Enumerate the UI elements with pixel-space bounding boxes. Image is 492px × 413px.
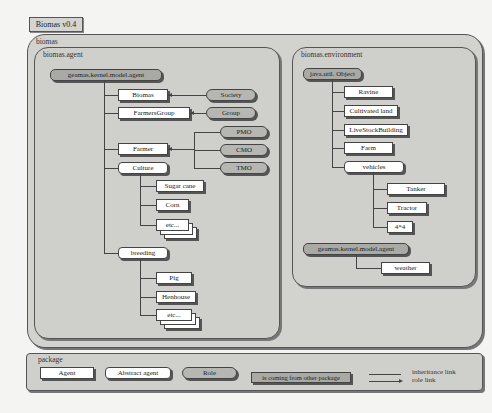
link (140, 315, 156, 316)
link (373, 208, 387, 209)
link (332, 111, 344, 112)
legend-inheritance-line (369, 374, 401, 375)
package-environment-label: biomas.environment (301, 50, 362, 59)
breeding-trunk (140, 259, 141, 315)
vehicles-trunk (373, 173, 374, 227)
link (140, 186, 156, 187)
class-henhouse: Henhouse (156, 291, 196, 303)
diagram-title: Biomas v0.4 (29, 17, 83, 32)
link (140, 278, 156, 279)
role-link-society (168, 95, 206, 96)
link (332, 92, 344, 93)
link (104, 149, 118, 150)
link (373, 189, 387, 190)
role-society: Society (206, 89, 256, 101)
class-farmer: Farmer (118, 143, 168, 155)
class-4x4: 4*4 (387, 221, 413, 233)
class-livestockbuilding: LiveStockBuilding (344, 124, 408, 136)
link (104, 113, 118, 114)
legend-external: is coming from other package (251, 372, 351, 383)
legend-role-label: role link (412, 376, 436, 384)
link (104, 95, 118, 96)
link (356, 268, 381, 269)
arrow-icon (190, 111, 194, 115)
package-agent-label: biomas.agent (43, 50, 83, 59)
class-cultivated-land: Cultivated land (344, 105, 398, 117)
class-culture: Culture (118, 162, 168, 174)
role-tmo: TMO (220, 162, 268, 174)
link (140, 297, 156, 298)
class-farmersgroup: FarmersGroup (118, 107, 190, 119)
role-pmo: PMO (220, 126, 268, 138)
legend-inheritance-label: inheritance link (412, 368, 456, 376)
link (194, 168, 220, 169)
role-cmo: CMO (220, 144, 268, 156)
class-tanker: Tanker (387, 183, 445, 195)
package-biomas-label: biomas (36, 37, 58, 46)
link (373, 227, 387, 228)
arrow-icon (399, 379, 403, 383)
env-root-java-object: java.util. Object (303, 68, 362, 80)
link (140, 205, 156, 206)
class-pig: Pig (156, 272, 192, 284)
class-corn: Corn (156, 199, 189, 211)
link (140, 225, 156, 226)
legend-agent: Agent (40, 367, 94, 379)
legend-role-line (369, 381, 399, 382)
class-vehicles: vehicles (344, 161, 404, 173)
env-agent-root-geamas: geamas.kernel.model.agent (303, 243, 409, 255)
arrow-icon (168, 147, 172, 151)
link (194, 132, 220, 133)
arrow-icon (168, 93, 172, 97)
link (104, 253, 118, 254)
link (332, 148, 344, 149)
class-weather: weather (381, 262, 430, 274)
culture-trunk (140, 174, 141, 226)
class-sugar-cane: Sugar cane (156, 180, 204, 192)
class-farm: Farm (344, 142, 393, 154)
legend-abstract-agent: Abstract agent (105, 367, 171, 379)
class-etc-culture: etc... (156, 219, 189, 231)
class-etc-breeding: etc... (156, 309, 192, 321)
link (356, 255, 357, 268)
legend-role: Role (182, 367, 237, 379)
class-biomas: Biomas (118, 89, 168, 101)
class-tractor: Tractor (387, 202, 427, 214)
inheritance-trunk (104, 81, 105, 253)
link (194, 150, 220, 151)
class-breeding: breeding (118, 247, 168, 259)
env-trunk (332, 80, 333, 167)
class-ravine: Ravine (344, 86, 393, 98)
link (104, 168, 118, 169)
link (332, 167, 344, 168)
legend-label: package (38, 355, 63, 364)
role-group: Group (206, 107, 256, 119)
agent-root-geamas: geamas.kernel.model.agent (50, 69, 162, 81)
link (332, 130, 344, 131)
